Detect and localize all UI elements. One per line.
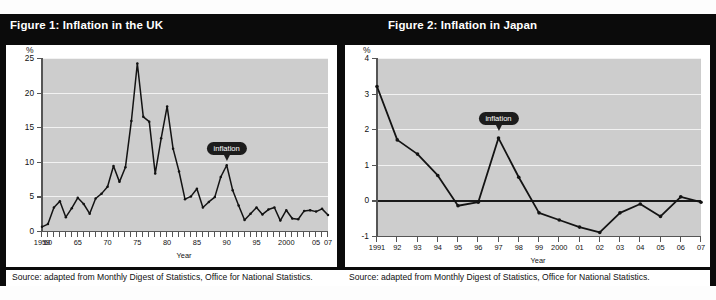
uk-chart: % Year 051015202519596065707580859095200… <box>6 45 337 267</box>
callout-pointer-icon <box>495 123 503 131</box>
inflation-callout: inflation <box>478 112 518 125</box>
jp-chart: % Year -10123419919293949596979899200001… <box>345 45 710 267</box>
figures-page: Figure 1: Inflation in the UK Figure 2: … <box>0 0 716 300</box>
figure-2-source: Source: adapted from Monthly Digest of S… <box>349 272 650 282</box>
callout-pointer-icon <box>223 153 231 161</box>
figure-1-title: Figure 1: Inflation in the UK <box>10 19 163 31</box>
titles-bar: Figure 1: Inflation in the UK Figure 2: … <box>0 14 716 42</box>
figure-2-title: Figure 2: Inflation in Japan <box>388 19 537 31</box>
sources-bar: Source: adapted from Monthly Digest of S… <box>6 270 710 286</box>
figure-2-card: % Year -10123419919293949596979899200001… <box>345 45 710 267</box>
data-series <box>6 45 337 267</box>
figure-1-card: % Year 051015202519596065707580859095200… <box>6 45 337 267</box>
figure-1-source: Source: adapted from Monthly Digest of S… <box>12 272 313 282</box>
data-series <box>345 45 710 267</box>
inflation-callout: inflation <box>207 142 247 155</box>
